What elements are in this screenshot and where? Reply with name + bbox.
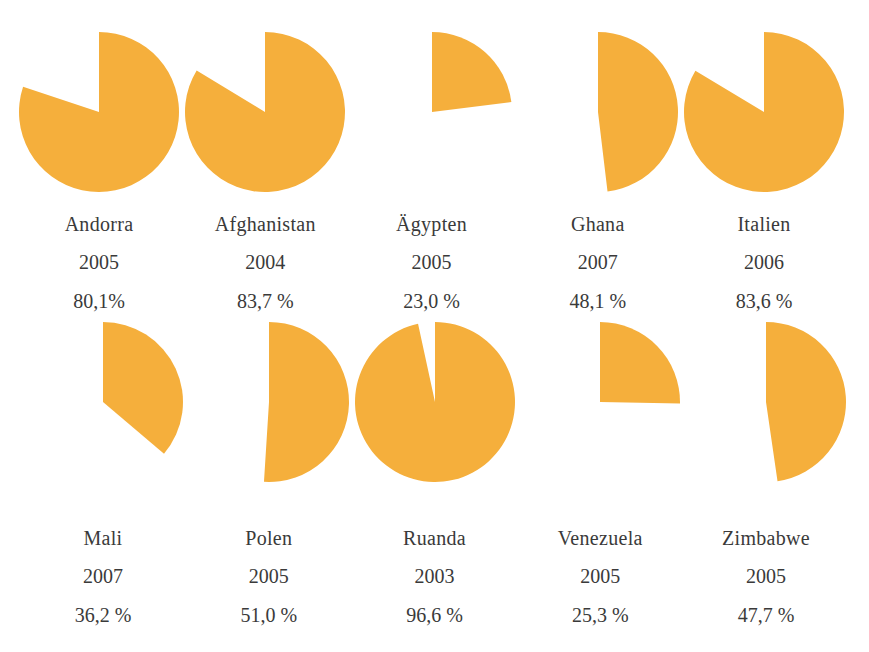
country-label: Polen <box>245 528 292 548</box>
pie-slice-graphic <box>519 320 681 498</box>
pie-label-block: Polen 2005 51,0 % <box>188 498 350 625</box>
year-label: 2003 <box>415 566 455 586</box>
pie-label-block: Italien 2006 83,6 % <box>683 208 845 311</box>
country-label: Ghana <box>571 214 625 234</box>
pie-label-block: Ägypten 2005 23,0 % <box>351 208 513 311</box>
pie-cell: Mali 2007 36,2 % <box>22 320 184 625</box>
pie-slice-graphic <box>18 30 180 208</box>
year-label: 2005 <box>412 252 452 272</box>
pie-label-block: Mali 2007 36,2 % <box>22 498 184 625</box>
year-label: 2007 <box>578 252 618 272</box>
pie-label-block: Venezuela 2005 25,3 % <box>519 498 681 625</box>
year-label: 2005 <box>79 252 119 272</box>
percent-label: 48,1 % <box>569 291 626 311</box>
pie-cell: Andorra 2005 80,1% <box>18 30 180 311</box>
country-label: Andorra <box>65 214 134 234</box>
year-label: 2006 <box>744 252 784 272</box>
pie-row-2: Mali 2007 36,2 % Polen 2005 51,0 % Ruand… <box>0 320 869 625</box>
pie-slice <box>19 32 179 192</box>
pie-slice <box>432 32 511 112</box>
pie-cell: Polen 2005 51,0 % <box>188 320 350 625</box>
percent-label: 96,6 % <box>406 605 463 625</box>
pie-cell: Zimbabwe 2005 47,7 % <box>685 320 847 625</box>
country-label: Ruanda <box>403 528 466 548</box>
pie-label-block: Ruanda 2003 96,6 % <box>354 498 516 625</box>
percent-label: 51,0 % <box>240 605 297 625</box>
pie-chart-figure: Andorra 2005 80,1% Afghanistan 2004 83,7… <box>0 0 869 652</box>
pie-slice <box>355 322 515 482</box>
pie-cell: Ruanda 2003 96,6 % <box>354 320 516 625</box>
percent-label: 36,2 % <box>75 605 132 625</box>
pie-slice <box>185 32 345 192</box>
pie-slice-graphic <box>685 320 847 498</box>
pie-label-block: Andorra 2005 80,1% <box>18 208 180 311</box>
pie-slice-graphic <box>188 320 350 498</box>
year-label: 2007 <box>83 566 123 586</box>
percent-label: 23,0 % <box>403 291 460 311</box>
pie-label-block: Zimbabwe 2005 47,7 % <box>685 498 847 625</box>
country-label: Venezuela <box>558 528 643 548</box>
pie-cell: Ghana 2007 48,1 % <box>517 30 679 311</box>
pie-cell: Italien 2006 83,6 % <box>683 30 845 311</box>
pie-slice-graphic <box>683 30 845 208</box>
pie-label-block: Ghana 2007 48,1 % <box>517 208 679 311</box>
pie-cell: Ägypten 2005 23,0 % <box>351 30 513 311</box>
pie-slice-graphic <box>184 30 346 208</box>
year-label: 2005 <box>249 566 289 586</box>
percent-label: 47,7 % <box>738 605 795 625</box>
pie-row-1: Andorra 2005 80,1% Afghanistan 2004 83,7… <box>0 30 869 311</box>
pie-slice <box>600 322 680 404</box>
pie-cell: Afghanistan 2004 83,7 % <box>184 30 346 311</box>
pie-label-block: Afghanistan 2004 83,7 % <box>184 208 346 311</box>
percent-label: 80,1% <box>73 291 125 311</box>
country-label: Italien <box>737 214 790 234</box>
year-label: 2005 <box>580 566 620 586</box>
pie-slice-graphic <box>354 320 516 498</box>
pie-slice <box>103 322 183 454</box>
pie-slice <box>684 32 844 192</box>
pie-slice <box>264 322 349 482</box>
pie-slice-graphic <box>22 320 184 498</box>
pie-cell: Venezuela 2005 25,3 % <box>519 320 681 625</box>
country-label: Zimbabwe <box>722 528 810 548</box>
country-label: Ägypten <box>396 214 467 234</box>
year-label: 2004 <box>245 252 285 272</box>
pie-slice <box>598 32 678 191</box>
percent-label: 83,7 % <box>237 291 294 311</box>
pie-slice <box>766 322 846 481</box>
percent-label: 25,3 % <box>572 605 629 625</box>
pie-slice-graphic <box>351 30 513 208</box>
pie-slice-graphic <box>517 30 679 208</box>
percent-label: 83,6 % <box>736 291 793 311</box>
year-label: 2005 <box>746 566 786 586</box>
country-label: Mali <box>84 528 123 548</box>
country-label: Afghanistan <box>215 214 316 234</box>
